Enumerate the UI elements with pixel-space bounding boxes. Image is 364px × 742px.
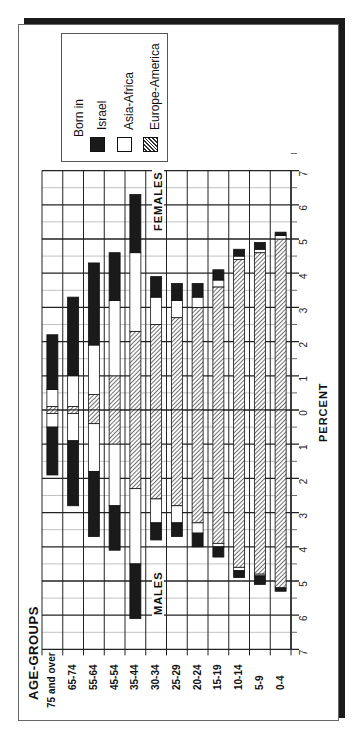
svg-text:5: 5 — [298, 581, 309, 587]
bar-male-europe-america — [234, 410, 245, 567]
category-label: 10-14 — [233, 664, 244, 690]
svg-text:5: 5 — [298, 239, 309, 245]
axis-ticks: 765432101234567 — [291, 154, 309, 656]
svg-text:1: 1 — [298, 376, 309, 382]
bar-female-israel — [171, 283, 182, 300]
bar-female-israel — [192, 283, 203, 297]
bar-female-asia-africa — [213, 280, 224, 287]
svg-text:2: 2 — [298, 341, 309, 347]
chart-title: AGE-GROUPS — [26, 606, 41, 700]
bar-male-europe-america — [68, 410, 79, 413]
svg-text:7: 7 — [298, 170, 309, 176]
bar-male-israel — [88, 472, 99, 537]
bar-male-israel — [213, 547, 224, 557]
category-label: 5-9 — [254, 676, 265, 690]
bar-female-europe-america — [130, 331, 141, 410]
males-label: MALES — [152, 571, 164, 617]
bar-male-europe-america — [130, 410, 141, 489]
bar-male-asia-africa — [171, 506, 182, 523]
bar-female-israel — [254, 242, 265, 249]
bar-female-europe-america — [68, 407, 79, 410]
bar-male-asia-africa — [234, 567, 245, 570]
bar-female-asia-africa — [171, 301, 182, 318]
bar-male-europe-america — [47, 410, 58, 413]
category-label: 15-19 — [212, 664, 223, 690]
bar-female-israel — [88, 263, 99, 345]
females-label: FEMALES — [152, 170, 164, 232]
category-label: 0-4 — [275, 676, 286, 690]
bar-female-europe-america — [109, 376, 120, 410]
bar-male-israel — [192, 533, 203, 547]
bar-male-israel — [109, 506, 120, 550]
x-axis-label: PERCENT — [317, 382, 329, 442]
category-label: 35-44 — [129, 664, 140, 690]
bar-male-israel — [254, 576, 265, 585]
svg-text:6: 6 — [298, 205, 309, 211]
bar-male-europe-america — [275, 410, 286, 588]
bar-female-europe-america — [151, 325, 162, 411]
pyramid-chart: 765432101234567 — [0, 0, 364, 742]
bar-male-europe-america — [192, 410, 203, 523]
bar-male-israel — [234, 571, 245, 578]
category-label: 20-24 — [192, 664, 203, 690]
bar-male-israel — [171, 523, 182, 537]
bar-female-europe-america — [234, 260, 245, 410]
bar-female-europe-america — [192, 307, 203, 410]
category-label: 25-29 — [171, 664, 182, 690]
bar-male-asia-africa — [68, 413, 79, 440]
bar-female-europe-america — [171, 318, 182, 410]
bar-female-israel — [47, 335, 58, 390]
svg-text:7: 7 — [298, 649, 309, 655]
bar-male-asia-africa — [47, 413, 58, 427]
category-label: 45-54 — [109, 664, 120, 690]
svg-text:3: 3 — [298, 512, 309, 518]
bar-male-asia-africa — [151, 499, 162, 523]
svg-text:0: 0 — [298, 410, 309, 416]
bar-female-asia-africa — [47, 389, 58, 406]
bar-male-israel — [68, 441, 79, 506]
bar-male-asia-africa — [213, 543, 224, 546]
bar-female-asia-africa — [254, 249, 265, 252]
bar-female-asia-africa — [275, 236, 286, 239]
bar-male-europe-america — [213, 410, 224, 543]
bar-male-israel — [275, 588, 286, 591]
bar-male-asia-africa — [192, 523, 203, 533]
bar-female-asia-africa — [192, 297, 203, 307]
bar-male-europe-america — [151, 410, 162, 499]
svg-text:3: 3 — [298, 307, 309, 313]
bar-male-israel — [151, 523, 162, 540]
category-label: 75 and over — [46, 652, 57, 708]
bar-male-europe-america — [88, 410, 99, 424]
category-label: 30-34 — [150, 664, 161, 690]
bar-male-israel — [47, 427, 58, 475]
bar-female-asia-africa — [109, 301, 120, 376]
svg-text:6: 6 — [298, 615, 309, 621]
bar-male-asia-africa — [88, 424, 99, 472]
bar-female-israel — [130, 195, 141, 253]
category-label: 65-74 — [67, 664, 78, 690]
bar-female-israel — [68, 297, 79, 376]
bar-female-israel — [213, 270, 224, 280]
bar-female-israel — [109, 253, 120, 301]
category-label: 55-64 — [88, 664, 99, 690]
bar-female-asia-africa — [68, 376, 79, 407]
bar-female-europe-america — [254, 253, 265, 410]
bar-female-europe-america — [275, 239, 286, 410]
bar-female-asia-africa — [88, 345, 99, 395]
bar-female-europe-america — [213, 287, 224, 410]
bar-female-israel — [151, 277, 162, 298]
bar-male-europe-america — [171, 410, 182, 506]
bar-female-asia-africa — [130, 253, 141, 332]
bar-female-israel — [234, 249, 245, 256]
bar-male-asia-africa — [109, 444, 120, 506]
bar-male-asia-africa — [130, 489, 141, 564]
svg-text:1: 1 — [298, 444, 309, 450]
bar-female-asia-africa — [234, 256, 245, 259]
bar-female-europe-america — [88, 395, 99, 410]
bar-male-europe-america — [254, 410, 265, 574]
bar-male-europe-america — [109, 410, 120, 444]
svg-text:2: 2 — [298, 478, 309, 484]
svg-text:4: 4 — [298, 547, 309, 553]
bar-male-israel — [130, 564, 141, 619]
bar-female-asia-africa — [151, 297, 162, 324]
